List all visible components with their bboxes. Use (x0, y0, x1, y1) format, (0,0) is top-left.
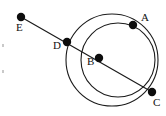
point-label-c: C (153, 96, 160, 108)
scan-speck-upper (2, 44, 4, 47)
point-label-a: A (141, 11, 149, 23)
point-d-dot (63, 38, 71, 46)
point-label-b: B (87, 55, 94, 67)
point-c-dot (148, 88, 156, 96)
point-label-d: D (53, 39, 61, 51)
geometry-figure: A B C D E (0, 0, 166, 116)
point-b-dot (95, 54, 103, 62)
scan-speck-lower (2, 70, 4, 73)
point-a-dot (129, 21, 137, 29)
point-label-e: E (16, 21, 23, 33)
geometry-canvas: A B C D E (0, 0, 166, 116)
point-e-dot (17, 13, 25, 21)
